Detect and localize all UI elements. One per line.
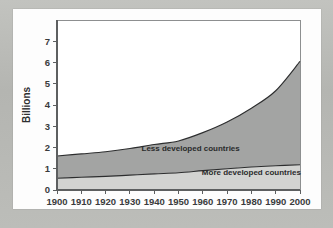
- x-tick-label: 2000: [289, 196, 310, 207]
- y-tick-label: 2: [45, 142, 50, 153]
- y-tick-label: 0: [45, 184, 50, 195]
- x-tick-label: 1950: [168, 196, 189, 207]
- x-tick-label: 1930: [119, 196, 140, 207]
- y-tick-label: 6: [45, 57, 50, 68]
- x-tick-label: 1900: [46, 196, 67, 207]
- x-tick-label: 1920: [95, 196, 116, 207]
- y-tick-label: 7: [45, 36, 50, 47]
- y-tick-label: 5: [45, 78, 51, 89]
- y-tick-label: 1: [45, 163, 51, 174]
- x-tick-label: 1940: [144, 196, 165, 207]
- x-tick-label: 1990: [265, 196, 286, 207]
- series-label-less-developed: Less developed countries: [142, 144, 241, 153]
- y-tick-label: 4: [45, 99, 51, 110]
- chart-figure: 01234567 1900191019201930194019501960197…: [0, 0, 333, 228]
- x-tick-label: 1970: [217, 196, 238, 207]
- x-tick-label: 1960: [192, 196, 213, 207]
- x-tick-label: 1980: [241, 196, 262, 207]
- population-area-chart: 01234567 1900191019201930194019501960197…: [0, 0, 333, 228]
- x-axis-ticks: 1900191019201930194019501960197019801990…: [46, 190, 310, 207]
- x-tick-label: 1910: [71, 196, 92, 207]
- y-tick-label: 3: [45, 121, 50, 132]
- y-axis-ticks: 01234567: [45, 36, 57, 196]
- series-label-more-developed: More developed countries: [202, 168, 302, 177]
- y-axis-title: Billions: [21, 87, 32, 124]
